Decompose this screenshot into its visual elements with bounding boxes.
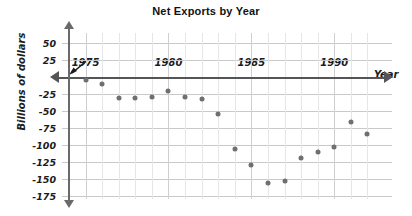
gridline-vertical (235, 33, 236, 199)
data-point (166, 89, 171, 94)
y-axis-tick-label: 25 (10, 55, 56, 66)
gridline-horizontal (62, 60, 392, 61)
gridline-horizontal (62, 94, 392, 95)
gridline-horizontal (62, 145, 392, 146)
y-axis-arrow-down-icon (64, 200, 74, 208)
data-point (183, 94, 188, 99)
y-axis-tick-labels: 5025-25-50-75-100-125-150-175 (8, 33, 56, 201)
data-point (315, 150, 320, 155)
gridline-horizontal (62, 196, 392, 197)
data-point (149, 94, 154, 99)
gridline-vertical (351, 33, 352, 199)
gridline-horizontal (62, 162, 392, 163)
y-axis-tick-label: 50 (10, 38, 56, 49)
plot-area (62, 33, 392, 201)
gridline-vertical (318, 33, 319, 199)
x-axis-arrow-right-icon (384, 71, 393, 83)
data-point (216, 112, 221, 117)
gridline-horizontal (62, 111, 392, 112)
gridline-vertical (285, 33, 286, 199)
data-point (83, 78, 88, 83)
data-point (365, 132, 370, 137)
data-point (232, 147, 237, 152)
y-axis-tick-label: -175 (10, 191, 56, 202)
gridline-vertical (185, 33, 186, 199)
y-axis-tick-label: -75 (10, 123, 56, 134)
chart-title: Net Exports by Year (0, 5, 412, 17)
y-axis-arrow-up-icon (64, 21, 74, 29)
data-point (348, 119, 353, 124)
gridline-vertical (86, 33, 87, 199)
gridline-vertical (334, 33, 335, 199)
gridline-vertical (301, 33, 302, 199)
gridline-vertical (202, 33, 203, 199)
x-axis-arrow-left-icon (50, 71, 59, 83)
gridline-vertical (152, 33, 153, 199)
y-axis-line (68, 27, 70, 205)
gridline-vertical (268, 33, 269, 199)
data-point (100, 82, 105, 87)
gridline-horizontal (62, 179, 392, 180)
y-axis-tick-label: -50 (10, 106, 56, 117)
gridline-vertical (367, 33, 368, 199)
gridline-vertical (168, 33, 169, 199)
gridline-vertical (135, 33, 136, 199)
data-point (332, 145, 337, 150)
y-axis-tick-label: -100 (10, 140, 56, 151)
net-exports-scatter-chart: Net Exports by Year Billions of dollars … (0, 0, 412, 216)
x-axis-line (55, 77, 387, 79)
gridline-horizontal (62, 43, 392, 44)
data-point (282, 179, 287, 184)
data-point (133, 96, 138, 101)
gridline-vertical (251, 33, 252, 199)
data-point (199, 97, 204, 102)
y-axis-tick-label: -25 (10, 89, 56, 100)
gridline-horizontal (62, 128, 392, 129)
data-point (116, 96, 121, 101)
gridline-vertical (119, 33, 120, 199)
y-axis-tick-label: -125 (10, 157, 56, 168)
data-point (299, 155, 304, 160)
data-point (265, 181, 270, 186)
y-axis-tick-label: -150 (10, 174, 56, 185)
data-point (249, 163, 254, 168)
gridline-vertical (102, 33, 103, 199)
